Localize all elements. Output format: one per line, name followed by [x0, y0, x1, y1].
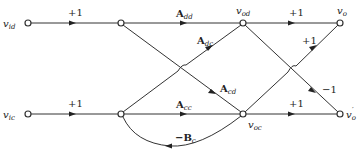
arrow-icon [180, 112, 187, 117]
node-voc [240, 111, 246, 117]
label-vod: vod [236, 5, 251, 18]
gain-add: Add [175, 8, 193, 21]
arrow-icon [69, 112, 76, 117]
gain-vid-n1: +1 [68, 7, 83, 18]
arrow-icon [208, 89, 216, 94]
label-vid: vid [3, 18, 16, 31]
gain-vod-vo: +1 [289, 7, 304, 18]
signal-flow-graph: vid vic vod voc vo vo′ +1 +1 Add Adc Acd… [0, 0, 364, 151]
node-n2 [118, 111, 124, 117]
node-vo [337, 20, 343, 26]
arrow-icon [288, 112, 295, 117]
node-vid [25, 20, 31, 26]
arrow-icon [288, 21, 295, 26]
node-vod [240, 20, 246, 26]
arrow-icon [180, 21, 187, 26]
gain-adc: Adc [196, 35, 213, 48]
gain-voc-vop: +1 [289, 98, 304, 109]
gain-voc-vo: +1 [302, 35, 317, 46]
node-vo-prime [337, 111, 343, 117]
arrow-icon [165, 144, 172, 149]
label-voc: voc [248, 119, 262, 132]
gain-acc: Acc [175, 99, 192, 112]
gain-bc: −Bc [175, 132, 196, 145]
node-vic [25, 111, 31, 117]
node-n1 [118, 20, 124, 26]
label-vo: vo [337, 5, 347, 18]
gain-acd: Acd [219, 83, 237, 96]
label-vic: vic [3, 109, 15, 122]
arrow-icon [69, 21, 76, 26]
gain-vod-vop: −1 [322, 84, 337, 95]
label-vo-prime: vo′ [346, 106, 356, 122]
gain-vic-n2: +1 [68, 98, 83, 109]
